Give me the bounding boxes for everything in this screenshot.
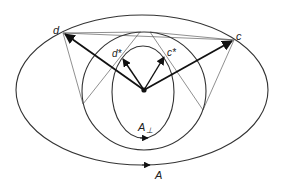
line-d-c	[63, 33, 234, 40]
tangent-d-right	[63, 32, 141, 33]
label-d-star: d*	[112, 48, 123, 59]
label-A-perp: A⊥	[137, 121, 153, 135]
label-c-star: c*	[167, 47, 177, 58]
tangent-c-left	[150, 32, 234, 40]
tangent-c-right	[203, 40, 234, 110]
label-A: A	[154, 169, 162, 181]
diagram-canvas: d c d* c* A⊥ A	[0, 0, 283, 186]
center-point	[141, 87, 146, 92]
label-A-perp-sub: ⊥	[146, 126, 153, 135]
label-c: c	[236, 30, 242, 42]
label-A-perp-main: A	[137, 121, 145, 133]
vector-c	[144, 41, 232, 90]
vector-d-star	[123, 59, 144, 90]
label-d: d	[53, 24, 60, 36]
